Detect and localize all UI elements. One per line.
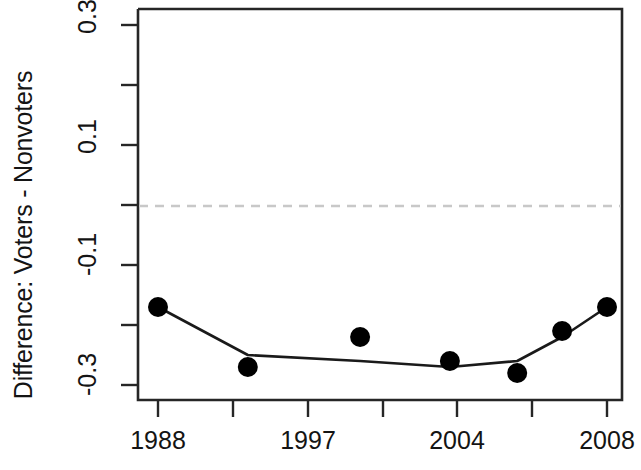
- data-point: [148, 297, 168, 317]
- trend-line: [158, 307, 607, 367]
- data-point: [440, 351, 460, 371]
- plot-area: [0, 0, 641, 470]
- data-point: [597, 297, 617, 317]
- chart-container: Difference: Voters - Nonvoters 0.3 0.1 -…: [0, 0, 641, 470]
- x-axis-ticks: [158, 400, 607, 417]
- data-point: [238, 357, 258, 377]
- data-point: [507, 363, 527, 383]
- data-point: [552, 321, 572, 341]
- plot-box-border: [138, 9, 622, 400]
- y-axis-ticks: [121, 25, 138, 385]
- data-point: [350, 327, 370, 347]
- plot-frame: [138, 9, 622, 400]
